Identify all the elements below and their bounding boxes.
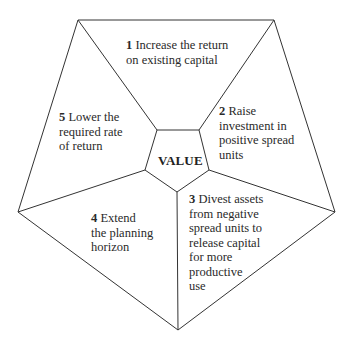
segment-3-line: spread units to <box>189 221 262 235</box>
segment-3-label: 3 Divest assets from negative spread uni… <box>189 192 263 294</box>
segment-5-number: 5 <box>59 110 65 124</box>
segment-2-line: positive spread <box>219 133 294 147</box>
segment-3-line: productive <box>189 265 242 279</box>
segment-3-line: for more <box>189 250 232 264</box>
divider-left <box>18 170 145 212</box>
segment-5-line: of return <box>59 139 102 153</box>
segment-3-line: Divest assets <box>198 192 263 206</box>
segment-2-label: 2 Raise investment in positive spread un… <box>219 104 294 162</box>
segment-4-line: Extend <box>100 211 135 225</box>
segment-2-line: Raise <box>228 104 256 118</box>
segment-4-line: horizon <box>91 240 129 254</box>
segment-3-line: use <box>189 279 206 293</box>
divider-bottom <box>177 192 178 330</box>
segment-1-label: 1 Increase the return on existing capita… <box>126 38 228 67</box>
segment-1-number: 1 <box>126 38 132 52</box>
segment-5-line: Lower the <box>68 110 119 124</box>
segment-2-line: investment in <box>219 119 287 133</box>
segment-4-number: 4 <box>91 211 97 225</box>
segment-3-line: from negative <box>189 207 259 221</box>
segment-1-line: on existing capital <box>126 53 218 67</box>
segment-1-line: Increase the return <box>135 38 228 52</box>
segment-2-number: 2 <box>219 104 225 118</box>
segment-3-number: 3 <box>189 192 195 206</box>
segment-5-line: required rate <box>59 125 123 139</box>
segment-5-label: 5 Lower the required rate of return <box>59 110 123 154</box>
segment-4-label: 4 Extend the planning horizon <box>91 211 153 255</box>
center-value-label: VALUE <box>158 153 203 169</box>
segment-2-line: units <box>219 148 243 162</box>
segment-3-line: release capital <box>189 236 260 250</box>
segment-4-line: the planning <box>91 226 153 240</box>
